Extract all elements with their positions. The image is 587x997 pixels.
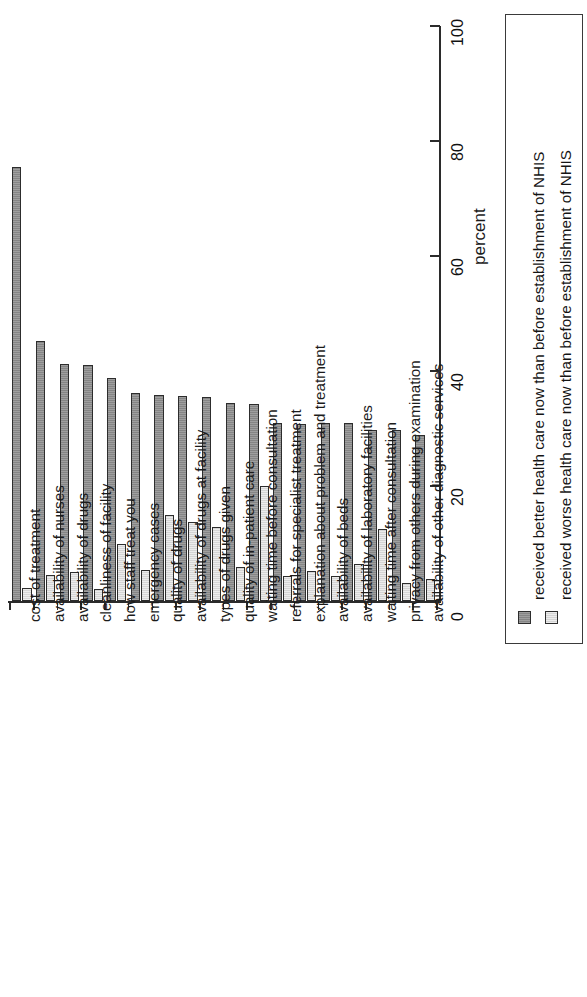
- value-axis-title: percent: [470, 208, 490, 265]
- chart-legend: received better health care now than bef…: [505, 14, 583, 644]
- worse-swatch: [545, 611, 558, 624]
- bar-better: [12, 167, 21, 601]
- category-label: how staff treat you: [122, 498, 137, 622]
- category-label: availability of drugs: [75, 493, 90, 622]
- value-axis-tick-label: 60: [449, 236, 467, 276]
- category-label: waiting time before consultation: [264, 409, 279, 622]
- category-label: privacy from others during examination: [407, 360, 422, 622]
- category-label: emergency cases: [146, 503, 161, 622]
- legend-label: received better health care now than bef…: [531, 152, 546, 600]
- category-label: types of drugs given: [217, 486, 232, 622]
- category-label: explanation about problem and treatment: [312, 345, 327, 622]
- category-label: quality of drugs: [169, 519, 184, 622]
- category-label: quality of in-patient care: [241, 461, 256, 622]
- bar-chart-figure: 020406080100 percent cost of treatmentav…: [0, 0, 587, 997]
- category-label: availability of nurses: [51, 485, 66, 622]
- category-label: availability of drugs at facility: [193, 430, 208, 622]
- category-label: cost of treatment: [27, 509, 42, 622]
- value-axis-tick-label: 20: [449, 466, 467, 506]
- better-swatch: [518, 611, 531, 624]
- category-label: cleanliness of facility: [98, 484, 113, 622]
- category-axis-tick: [9, 601, 11, 610]
- value-axis-tick: [430, 25, 440, 27]
- category-label: availability of other diagnostic service…: [430, 364, 445, 622]
- value-axis-tick-label: 100: [449, 6, 467, 46]
- category-label: referrals for specialist treatment: [288, 409, 303, 622]
- value-axis-tick-label: 40: [449, 351, 467, 391]
- value-axis-tick: [430, 140, 440, 142]
- legend-label: received worse health care now than befo…: [558, 150, 573, 600]
- value-axis-tick-label: 80: [449, 121, 467, 161]
- category-label: availability of beds: [335, 498, 350, 622]
- value-axis-tick: [430, 255, 440, 257]
- value-axis-tick-label: 0: [449, 581, 467, 621]
- category-label: waiting time after consultation: [383, 422, 398, 622]
- category-label: availability of laboratory facilities: [359, 405, 374, 622]
